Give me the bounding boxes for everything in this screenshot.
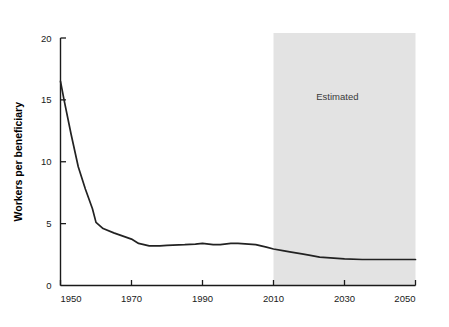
- x-tick-label: 2030: [334, 293, 355, 304]
- y-tick-label: 5: [46, 218, 51, 229]
- y-tick-label: 15: [41, 94, 52, 105]
- x-tick-label: 1970: [121, 293, 142, 304]
- y-tick-label: 0: [46, 280, 51, 291]
- estimated-shaded-region: [274, 33, 416, 286]
- x-tick-label: 1990: [192, 293, 213, 304]
- x-tick-label: 1950: [61, 293, 82, 304]
- estimated-region-label: Estimated: [316, 91, 358, 102]
- x-tick-label: 2010: [263, 293, 284, 304]
- y-tick-label: 10: [41, 156, 52, 167]
- chart-container: 195019701990201020302050 05101520 Worker…: [0, 0, 449, 327]
- y-axis-title: Workers per beneficiary: [12, 102, 24, 222]
- y-tick-label: 20: [41, 33, 52, 44]
- workers-per-beneficiary-line-chart: 195019701990201020302050 05101520 Worker…: [0, 0, 449, 327]
- x-tick-label: 2050: [394, 293, 415, 304]
